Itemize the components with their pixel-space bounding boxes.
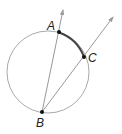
label-b: B (36, 116, 44, 130)
label-a: A (46, 19, 55, 33)
point-c (82, 55, 86, 59)
inscribed-angle-diagram: A B C (0, 0, 122, 134)
point-a (57, 30, 61, 34)
arc-ac-highlight (59, 33, 84, 58)
label-c: C (88, 51, 97, 65)
point-b (40, 110, 44, 114)
